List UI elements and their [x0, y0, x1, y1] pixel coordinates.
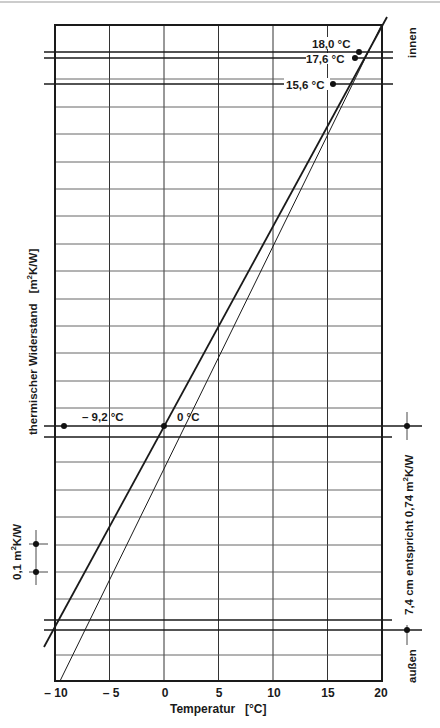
- y-axis-label: thermischer Widerstand[m2K/W]: [25, 249, 39, 435]
- label-17-6: 17,6 °C: [306, 53, 344, 65]
- tick-0: 0: [162, 686, 169, 700]
- label-aussen: außen: [406, 649, 418, 683]
- tick-20: 20: [374, 686, 388, 700]
- scale-bar-label: 0,1 m2K/W: [9, 524, 23, 580]
- point-15-6: [330, 81, 336, 87]
- scale-bar: [29, 530, 48, 585]
- label-15-6: 15,6 °C: [286, 79, 324, 91]
- tick-minus-10: – 10: [44, 686, 68, 700]
- label-0: 0 °C: [177, 411, 200, 423]
- dimension-dot-top: [404, 423, 410, 429]
- scale-note: 7,4 cm entspricht 0,74 m2K/W: [401, 454, 415, 615]
- point-minus-9-2: [61, 423, 67, 429]
- x-axis-ticks: – 10 – 5 0 5 10 15 20: [44, 686, 388, 700]
- point-17-6: [352, 55, 358, 61]
- tick-5: 5: [216, 686, 223, 700]
- tick-minus-5: – 5: [103, 686, 120, 700]
- scale-bar-dot-top: [33, 541, 39, 547]
- point-0: [161, 423, 167, 429]
- scale-bar-dot-bottom: [33, 569, 39, 575]
- x-axis-unit: [°C]: [245, 702, 266, 716]
- dimension-dot-bottom: [404, 627, 410, 633]
- label-innen: innen: [406, 27, 418, 58]
- point-18-0: [356, 49, 362, 55]
- tick-15: 15: [321, 686, 335, 700]
- label-18-0: 18,0 °C: [312, 38, 350, 50]
- temperature-line-thick: [44, 17, 387, 647]
- x-axis-label: Temperatur: [170, 702, 235, 716]
- temperature-resistance-chart: 18,0 °C 17,6 °C 15,6 °C – 9,2 °C 0 °C in…: [0, 0, 440, 728]
- temperature-line-thin: [60, 26, 381, 681]
- tick-10: 10: [267, 686, 281, 700]
- label-minus-9-2: – 9,2 °C: [82, 411, 124, 423]
